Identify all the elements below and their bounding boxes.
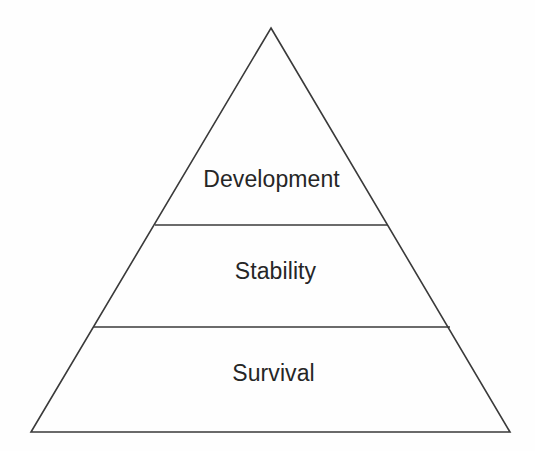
- tier-label-stability: Stability: [0, 258, 535, 284]
- pyramid-diagram: Development Stability Survival: [0, 0, 535, 451]
- tier-label-development: Development: [0, 166, 535, 192]
- tier-label-survival: Survival: [0, 360, 535, 386]
